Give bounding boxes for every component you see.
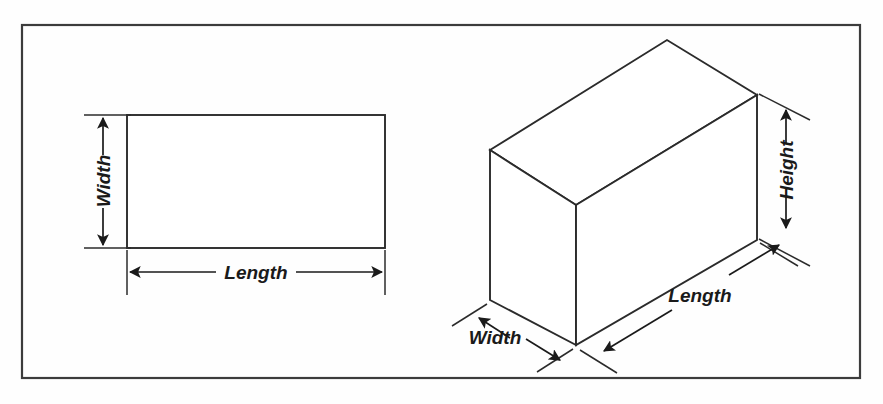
rectangle-diagram: Width Length [84, 115, 385, 295]
box-width-ext-far [452, 304, 487, 326]
rect-width-dimension: Width [84, 115, 131, 248]
rect-length-dimension: Length [127, 250, 385, 295]
box-length-ext-near [580, 350, 617, 373]
box-width-label: Width [469, 327, 522, 348]
rectangle-shape [127, 115, 385, 248]
box-diagram: Height Length [452, 40, 810, 373]
box-width-arrow-near [526, 339, 560, 360]
box-length-label: Length [668, 285, 731, 306]
figure-page: Width Length [0, 0, 883, 404]
box-length-ext-far [760, 243, 798, 266]
box-height-label: Height [776, 140, 797, 200]
rect-width-label: Width [93, 155, 114, 208]
geometry-figure: Width Length [0, 0, 883, 404]
box-width-ext-near [537, 349, 573, 372]
box-height-dimension: Height [759, 94, 810, 266]
rect-length-label: Length [224, 262, 287, 283]
box-height-ext-top [759, 94, 810, 120]
